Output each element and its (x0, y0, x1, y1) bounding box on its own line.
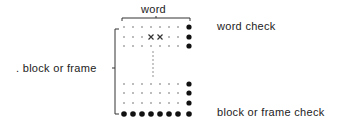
continuation-dot (152, 55, 153, 56)
data-bit (123, 102, 125, 104)
marked-bit-x (158, 35, 163, 40)
data-bit (141, 26, 143, 28)
data-bit (123, 36, 125, 38)
data-bit (150, 92, 152, 94)
word-check-bit (186, 43, 191, 48)
block-check-bit (148, 111, 154, 117)
data-bit (141, 83, 143, 85)
data-bit (168, 102, 170, 104)
data-bit (150, 45, 152, 47)
data-bit (168, 26, 170, 28)
data-bit (159, 102, 161, 104)
data-bit (141, 102, 143, 104)
block-bracket (112, 29, 119, 114)
data-bit (159, 26, 161, 28)
data-bit (177, 92, 179, 94)
word-check-bit (186, 100, 191, 105)
continuation-dot (152, 59, 153, 60)
data-bit (168, 83, 170, 85)
data-bit (159, 83, 161, 85)
data-bit (177, 102, 179, 104)
data-bit (159, 92, 161, 94)
block-check-bit (175, 111, 181, 117)
block-check-bit (186, 111, 192, 117)
data-bit (132, 36, 134, 38)
data-bit (123, 26, 125, 28)
word-check-bit (186, 81, 191, 86)
block-check-bit (139, 111, 145, 117)
block-check-bit (130, 111, 136, 117)
block-check-bit (166, 111, 172, 117)
continuation-dot (152, 67, 153, 68)
data-bit (168, 45, 170, 47)
word-check-bit (186, 34, 191, 39)
data-bit (141, 45, 143, 47)
data-bit (132, 102, 134, 104)
marked-bit-x (149, 35, 154, 40)
data-bit (168, 92, 170, 94)
data-bit (150, 102, 152, 104)
data-bit (177, 26, 179, 28)
continuation-dot (152, 75, 153, 76)
data-bit (123, 92, 125, 94)
data-bit (150, 83, 152, 85)
data-bit (132, 26, 134, 28)
data-bit (132, 83, 134, 85)
data-bit (168, 36, 170, 38)
block-check-bit (157, 111, 163, 117)
data-bit (141, 92, 143, 94)
word-check-bit (186, 90, 191, 95)
word-check-bit (186, 24, 191, 29)
data-bit (177, 36, 179, 38)
bit-grid (0, 0, 349, 126)
data-bit (123, 83, 125, 85)
data-bit (141, 36, 143, 38)
data-bit (123, 45, 125, 47)
continuation-dot (152, 51, 153, 52)
data-bit (132, 92, 134, 94)
data-bit (177, 83, 179, 85)
data-bit (159, 45, 161, 47)
continuation-dot (152, 63, 153, 64)
block-check-bit (121, 111, 127, 117)
word-bracket (122, 16, 190, 21)
data-bit (177, 45, 179, 47)
data-bit (132, 45, 134, 47)
data-bit (150, 26, 152, 28)
continuation-dot (152, 71, 153, 72)
